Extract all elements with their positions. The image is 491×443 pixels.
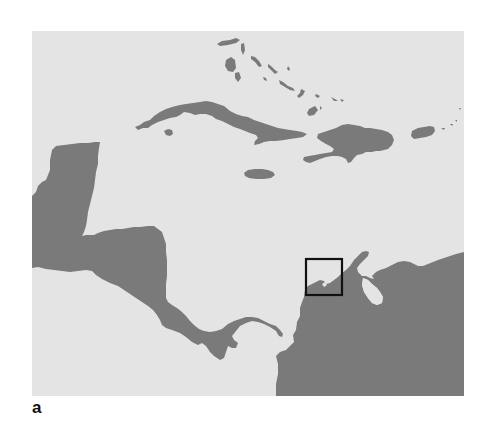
panel-label: a	[32, 398, 41, 418]
caribbean-map	[32, 31, 464, 396]
map-panel	[32, 31, 464, 396]
